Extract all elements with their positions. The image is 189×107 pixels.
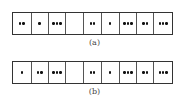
cell — [154, 62, 172, 83]
dot-icon — [165, 22, 167, 24]
cell — [66, 13, 84, 34]
dot-icon — [19, 22, 21, 24]
dot-icon — [52, 71, 54, 73]
cell — [154, 13, 172, 34]
dot-icon — [90, 71, 92, 73]
dot-icon — [93, 22, 95, 24]
dot-icon — [130, 22, 132, 24]
dot-icon — [146, 71, 148, 73]
dot-icon — [38, 22, 40, 24]
dot-icon — [21, 71, 23, 73]
dot-icon — [59, 22, 61, 24]
dot-icon — [40, 71, 42, 73]
dot-icon — [52, 22, 54, 24]
caption-b: (b) — [0, 87, 189, 96]
dot-icon — [162, 71, 164, 73]
strip-a — [12, 12, 173, 35]
dot-icon — [109, 71, 111, 73]
cell — [13, 62, 32, 83]
cell — [102, 62, 120, 83]
dot-icon — [127, 71, 129, 73]
dot-icon — [22, 22, 24, 24]
strip-b — [12, 61, 173, 84]
dot-icon — [146, 22, 148, 24]
cell — [49, 62, 67, 83]
cell — [32, 13, 49, 34]
dot-icon — [142, 71, 144, 73]
dot-icon — [162, 22, 164, 24]
cell — [137, 13, 154, 34]
cell — [32, 62, 49, 83]
cell — [49, 13, 67, 34]
dot-icon — [165, 71, 167, 73]
dot-icon — [130, 71, 132, 73]
cell — [102, 13, 120, 34]
dot-icon — [37, 71, 39, 73]
caption-a: (a) — [0, 38, 189, 47]
cell — [120, 62, 138, 83]
cell — [84, 13, 102, 34]
dot-icon — [127, 22, 129, 24]
cell — [137, 62, 154, 83]
dot-icon — [159, 22, 161, 24]
dot-icon — [109, 22, 111, 24]
dot-icon — [59, 71, 61, 73]
dot-icon — [142, 22, 144, 24]
cell — [66, 62, 84, 83]
dot-icon — [56, 22, 58, 24]
dot-icon — [56, 71, 58, 73]
dot-icon — [123, 22, 125, 24]
dot-icon — [90, 22, 92, 24]
cell — [13, 13, 32, 34]
dot-icon — [93, 71, 95, 73]
dot-icon — [159, 71, 161, 73]
cell — [84, 62, 102, 83]
dot-icon — [123, 71, 125, 73]
cell — [120, 13, 138, 34]
